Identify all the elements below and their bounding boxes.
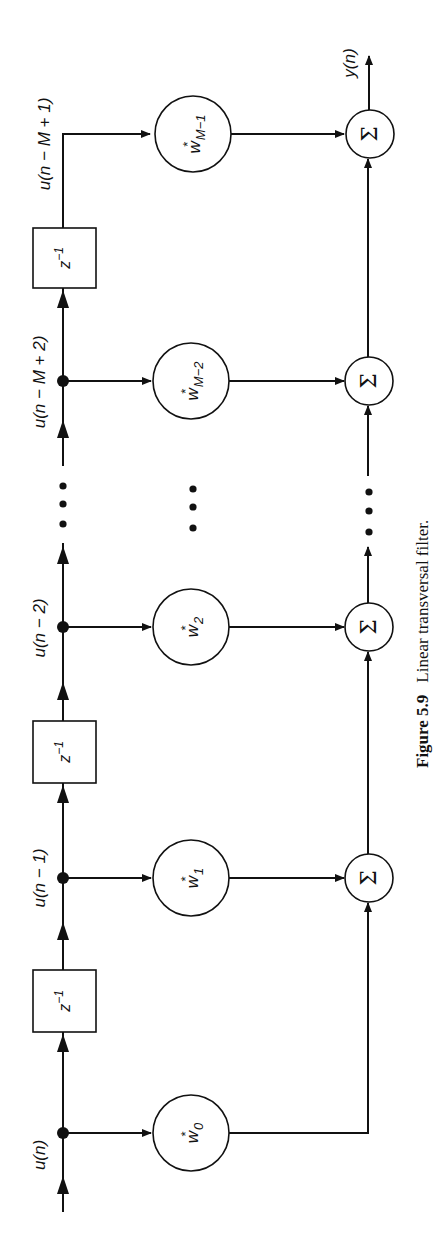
label-tap2: u(n − 2) [30,598,49,657]
arrow-up-icon [57,420,69,438]
svg-text:Σ: Σ [357,126,382,142]
delay-block-2: z−1 [33,721,96,783]
label-tapM2: u(n − M + 2) [30,336,49,429]
weights-ellipsis [189,485,196,531]
weight-w2: w*2 [153,589,229,665]
transversal-filter-diagram: z−1 z−1 z−1 w*0 w*1 w*2 [0,0,443,1253]
summer-m2: Σ [345,357,393,405]
svg-text:Σ: Σ [356,619,381,635]
weight-w0: w*0 [153,1095,229,1171]
label-output: y(n) [340,48,359,78]
arrow-up-icon [57,1034,69,1052]
summer-2: Σ [345,603,393,651]
summers-ellipsis [365,488,372,535]
figure-number: Figure 5.9 [413,695,432,768]
weight-wM-2: w*M−2 [153,343,229,419]
label-tapM1: u(n − M + 1) [35,98,54,191]
arrow-up-icon [57,1176,69,1194]
delay-line-ellipsis [59,482,66,527]
figure-caption-text: Linear transversal filter. [413,520,432,683]
arrow-up-icon [57,290,69,308]
delay-block-1: z−1 [33,970,96,1032]
arrow-up-icon [57,922,69,940]
svg-text:Σ: Σ [356,870,381,886]
arrow-up-icon [57,785,69,803]
weight-wM-1: w*M−1 [155,96,231,172]
figure-caption: Figure 5.9Linear transversal filter. [413,520,432,768]
summer-m1: Σ [346,110,394,158]
weight-w1: w*1 [153,840,229,916]
label-input: u(n) [30,1140,49,1170]
label-tap1: u(n − 1) [30,848,49,907]
delay-block-3: z−1 [33,228,96,288]
svg-text:Σ: Σ [356,373,381,389]
arrow-up-icon [57,546,69,564]
summer-1: Σ [345,854,393,902]
arrow-up-icon [57,682,69,700]
delay-line [57,134,150,1212]
